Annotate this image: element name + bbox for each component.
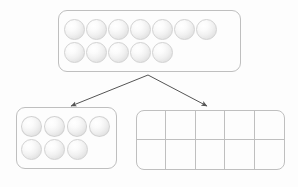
diagram-title: Decomposing 12 counters into a group of … <box>0 0 1 1</box>
counter-chip[interactable] <box>130 42 151 63</box>
ten-frame-cell[interactable] <box>137 111 166 140</box>
counter-chip[interactable] <box>64 42 85 63</box>
ten-frame-box[interactable]: 10 <box>136 110 285 170</box>
ten-frame-cell[interactable] <box>166 140 195 169</box>
ten-frame-cell[interactable] <box>225 111 254 140</box>
counter-chip[interactable] <box>108 19 129 40</box>
ten-frame-grid <box>137 111 284 169</box>
counter-chip[interactable] <box>130 19 151 40</box>
counter-chip[interactable] <box>44 139 65 160</box>
top-counter-row-2 <box>64 41 235 64</box>
ten-frame-cell[interactable] <box>196 111 225 140</box>
counter-chip[interactable] <box>64 19 85 40</box>
left-counter-rows <box>17 108 116 168</box>
counter-chip[interactable] <box>21 116 42 137</box>
top-counter-rows <box>59 11 240 71</box>
ten-frame-cell[interactable] <box>137 140 166 169</box>
ten-frame-cell[interactable] <box>225 140 254 169</box>
ten-frame-cell[interactable] <box>255 140 284 169</box>
top-counter-row-1 <box>64 18 235 41</box>
counter-chip[interactable] <box>86 42 107 63</box>
ten-frame-cell[interactable] <box>196 140 225 169</box>
ten-frame-cell[interactable] <box>255 111 284 140</box>
left-counter-row-2 <box>21 138 112 161</box>
left-counter-row-1 <box>21 115 112 138</box>
counter-chip[interactable] <box>67 116 88 137</box>
counter-chip[interactable] <box>152 19 173 40</box>
counter-chip[interactable] <box>89 116 110 137</box>
ten-frame-cell[interactable] <box>166 111 195 140</box>
arrow-to-ten-frame <box>148 75 207 106</box>
arrow-to-left-group <box>71 75 148 106</box>
left-counter-group-box[interactable]: 7 <box>16 107 117 169</box>
counter-chip[interactable] <box>67 139 88 160</box>
counter-chip[interactable] <box>174 19 195 40</box>
counter-chip[interactable] <box>21 139 42 160</box>
diagram-canvas: Decomposing 12 counters into a group of … <box>0 0 298 187</box>
counter-chip[interactable] <box>86 19 107 40</box>
top-counter-group-box[interactable]: 12 <box>58 10 241 72</box>
counter-chip[interactable] <box>44 116 65 137</box>
counter-chip[interactable] <box>196 19 217 40</box>
counter-chip[interactable] <box>108 42 129 63</box>
counter-chip[interactable] <box>152 42 173 63</box>
